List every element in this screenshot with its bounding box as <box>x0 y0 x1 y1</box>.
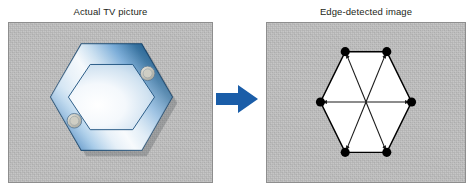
vertex-dot-right <box>407 97 416 106</box>
edge-detected-image-graphic <box>267 23 465 182</box>
right-arrow-icon <box>216 84 258 114</box>
upper-right-hole-icon <box>140 66 155 81</box>
vertex-dot-left <box>316 97 325 106</box>
vertex-dot-top-right <box>382 47 391 56</box>
panel-edge-detected-image <box>266 22 466 183</box>
panel-caption-edges: Edge-detected image <box>266 6 466 18</box>
vertex-dot-bottom-right <box>382 148 391 157</box>
panel-caption-actual: Actual TV picture <box>8 6 213 18</box>
vertex-dot-top-left <box>341 47 350 56</box>
figure-edge-detection: Actual TV picture <box>0 0 473 195</box>
actual-tv-picture-graphic <box>9 23 212 182</box>
lower-left-hole-icon <box>67 113 82 128</box>
panel-actual-tv-picture <box>8 22 213 183</box>
vertex-dot-bottom-left <box>341 148 350 157</box>
